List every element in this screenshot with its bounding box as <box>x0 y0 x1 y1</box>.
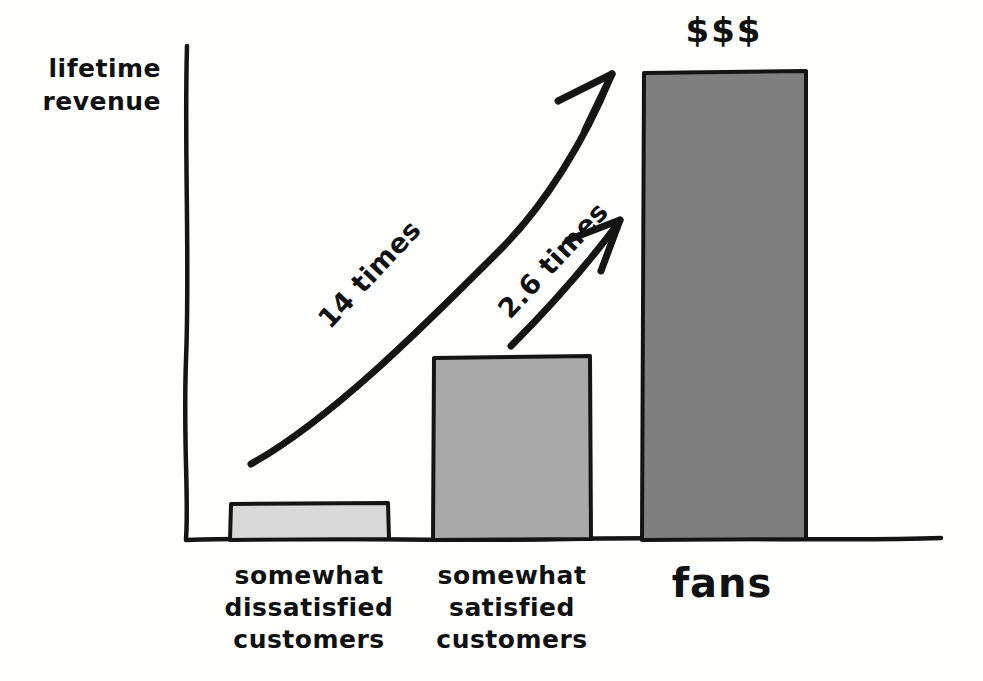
sketch-chart: 14 times 2.6 times $$$ lifetime revenue … <box>0 0 983 681</box>
category-label-fans: fans <box>672 560 773 606</box>
category-label-dissatisfied-line1: somewhat <box>235 561 384 590</box>
y-axis-label-line2: revenue <box>42 87 161 116</box>
category-label-satisfied-line1: somewhat <box>438 561 587 590</box>
category-label-satisfied-line3: customers <box>436 625 587 654</box>
y-axis-label-line1: lifetime <box>49 54 162 83</box>
bar-dissatisfied[interactable] <box>230 503 389 540</box>
chart-canvas: 14 times 2.6 times $$$ lifetime revenue … <box>0 0 983 681</box>
category-label-dissatisfied-line2: dissatisfied <box>225 593 394 622</box>
annotation-14-times-label: 14 times <box>312 214 427 334</box>
bar-satisfied[interactable] <box>433 356 591 540</box>
money-label: $$$ <box>686 10 763 50</box>
bar-fans[interactable] <box>642 71 806 540</box>
category-label-dissatisfied-line3: customers <box>233 625 384 654</box>
category-label-satisfied-line2: satisfied <box>449 593 575 622</box>
y-axis-line <box>185 46 187 539</box>
